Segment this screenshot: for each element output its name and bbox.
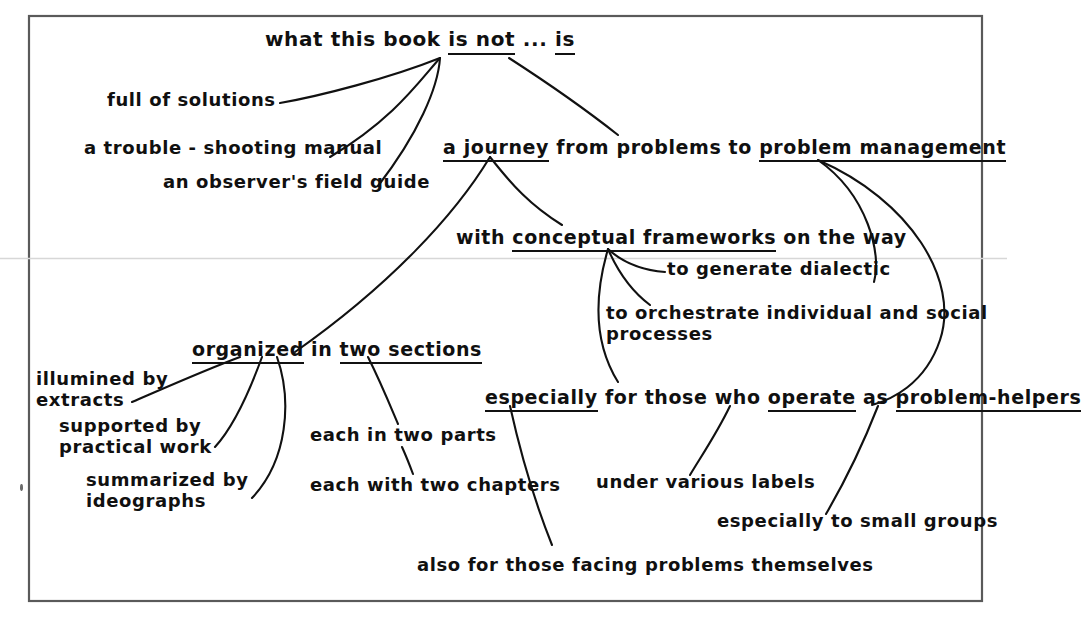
illumined-line-1: illumined by (36, 369, 168, 390)
node-under-various-labels: under various labels (596, 472, 815, 493)
node-each-with-two-chapters: each with two chapters (310, 475, 561, 496)
connector-organized-to-supported (215, 357, 262, 447)
node-to-orchestrate: to orchestrate individual and social pro… (606, 303, 988, 345)
connector-problem-helpers-to-small-groups (826, 406, 878, 514)
node-full-of-solutions: full of solutions (107, 90, 276, 111)
organized-middle-text: in (311, 338, 332, 360)
journey-middle-text: from problems to (556, 136, 752, 158)
node-to-generate-dialectic: to generate dialectic (667, 259, 891, 280)
connector-journey-to-frameworks (490, 157, 562, 225)
node-illumined-by-extracts: illumined by extracts (36, 369, 168, 411)
node-especially-line: especially for those who operate as prob… (485, 386, 1081, 408)
connector-operate-to-under-various-labels (690, 406, 730, 475)
problem-helpers-emphasis: problem-helpers (896, 386, 1081, 412)
problem-management-emphasis: problem management (759, 136, 1006, 162)
title-ellipsis: ... (523, 27, 548, 51)
connector-two-sections-to-each-two-parts (368, 357, 398, 424)
node-observers-field-guide: an observer's field guide (163, 172, 430, 193)
organized-emphasis: organized (192, 338, 304, 364)
connector-problem-management-to-problem-helpers (818, 160, 944, 405)
node-each-in-two-parts: each in two parts (310, 425, 497, 446)
node-trouble-shooting-manual: a trouble - shooting manual (84, 138, 382, 159)
node-journey-line: a journey from problems to problem manag… (443, 136, 1006, 158)
node-organized-line: organized in two sections (192, 338, 482, 360)
supported-line-1: supported by (59, 416, 212, 437)
especially-as-text: as (863, 386, 888, 408)
supported-line-2: practical work (59, 437, 212, 458)
node-conceptual-frameworks-line: with conceptual frameworks on the way (456, 226, 907, 248)
node-supported-by-practical-work: supported by practical work (59, 416, 212, 458)
summarized-line-1: summarized by (86, 470, 249, 491)
title-prefix: what this book (265, 27, 441, 51)
operate-emphasis: operate (768, 386, 856, 412)
title-emphasis-is-not: is not (448, 27, 515, 55)
connector-frameworks-to-orchestrate (608, 249, 650, 305)
connector-is-to-journey (509, 58, 618, 135)
node-also-for-those-facing-problems: also for those facing problems themselve… (417, 555, 874, 576)
especially-emphasis: especially (485, 386, 598, 412)
orchestrate-line-1: to orchestrate individual and social (606, 303, 988, 324)
node-title: what this book is not ... is (265, 28, 575, 51)
conceptual-frameworks-emphasis: conceptual frameworks (512, 226, 776, 252)
scan-speck-artifact (20, 484, 23, 491)
connector-each-two-parts-to-each-two-chapters (402, 447, 413, 474)
frameworks-prefix: with (456, 226, 505, 248)
summarized-line-2: ideographs (86, 491, 249, 512)
orchestrate-line-2: processes (606, 324, 988, 345)
frameworks-suffix: on the way (783, 226, 906, 248)
two-sections-emphasis: two sections (340, 338, 482, 364)
title-emphasis-is: is (555, 27, 575, 55)
connector-isnot-to-full-of-solutions (280, 58, 440, 103)
node-summarized-by-ideographs: summarized by ideographs (86, 470, 249, 512)
especially-middle-text: for those who (605, 386, 761, 408)
connector-frameworks-to-generate-dialectic (608, 249, 665, 272)
illumined-line-2: extracts (36, 390, 168, 411)
connector-organized-to-summarized (252, 357, 285, 498)
journey-emphasis: a journey (443, 136, 549, 162)
node-especially-to-small-groups: especially to small groups (717, 511, 998, 532)
